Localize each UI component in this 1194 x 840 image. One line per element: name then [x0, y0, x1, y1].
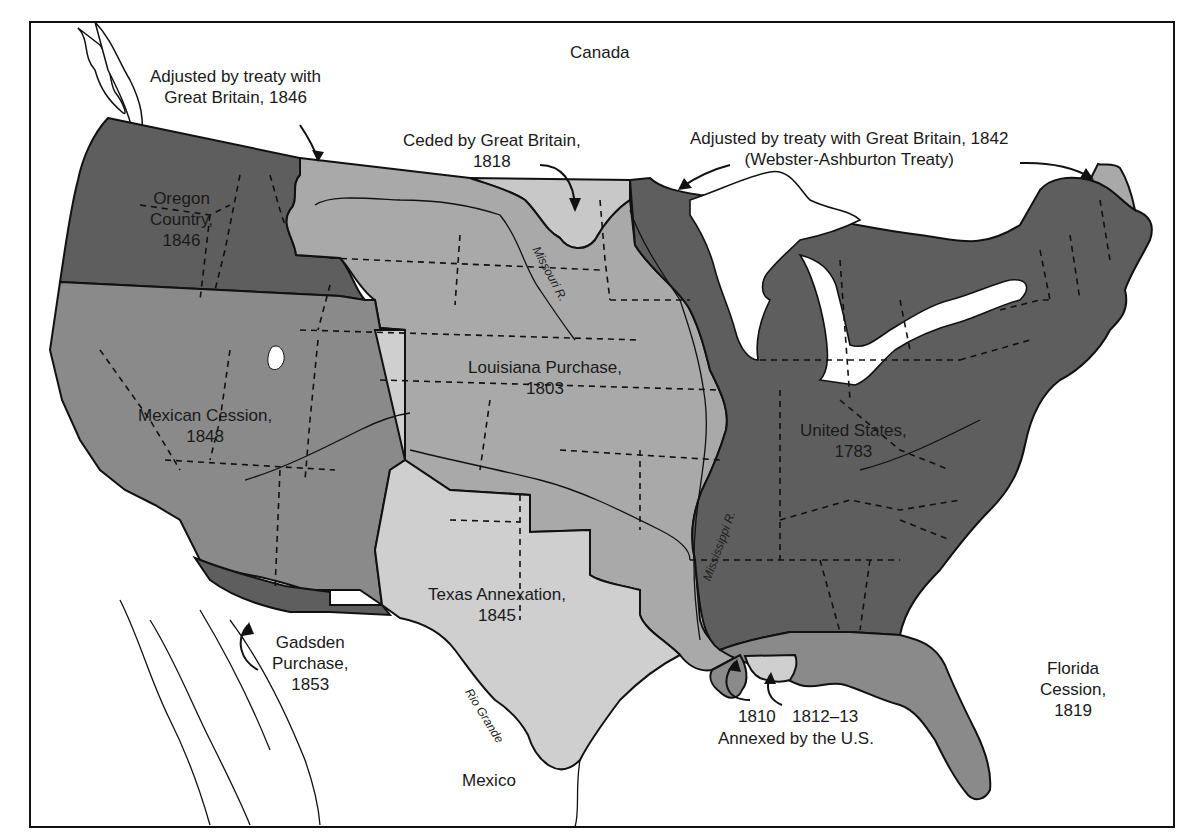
annotation-treaty-1842: Adjusted by treaty with Great Britain, 1… [690, 128, 1008, 170]
great-salt-lake [268, 346, 284, 370]
label-gadsden-purchase: Gadsden Purchase, 1853 [272, 632, 349, 695]
label-oregon-country: Oregon Country, 1846 [150, 188, 213, 251]
annotation-annexed-year-1812: 1812–13 [792, 706, 858, 727]
label-louisiana-purchase: Louisiana Purchase, 1803 [468, 357, 622, 399]
annotation-annexed-year-1810: 1810 [738, 706, 776, 727]
label-texas-annexation: Texas Annexation, 1845 [428, 584, 566, 626]
label-mexican-cession: Mexican Cession, 1848 [138, 405, 272, 447]
annotation-treaty-1846: Adjusted by treaty with Great Britain, 1… [150, 66, 321, 108]
map-frame: Canada Mexico Oregon Country, 1846 Louis… [0, 0, 1194, 840]
label-mexico: Mexico [462, 770, 516, 791]
annotation-ceded-1818: Ceded by Great Britain, 1818 [403, 130, 581, 172]
label-united-states-1783: United States, 1783 [800, 420, 907, 462]
annotation-annexed-caption: Annexed by the U.S. [718, 728, 874, 749]
label-florida-cession: Florida Cession, 1819 [1040, 658, 1106, 721]
label-canada: Canada [570, 42, 630, 63]
